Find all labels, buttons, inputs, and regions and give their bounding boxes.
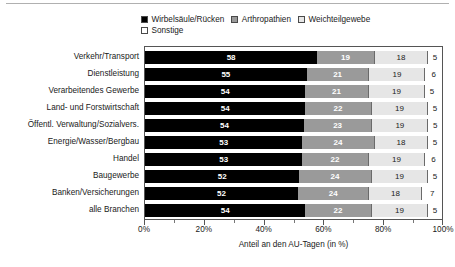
legend-label-2: Weichteilgewebe <box>308 14 370 25</box>
y-axis-label: Handel <box>0 152 139 165</box>
y-axis-label: alle Branchen <box>0 203 139 216</box>
bar-segment: 5 <box>427 51 442 64</box>
x-tick-minor <box>234 220 235 223</box>
bar-segment-value: 18 <box>396 138 405 147</box>
x-tick-major <box>383 220 384 225</box>
bar-segment: 21 <box>305 85 367 98</box>
x-tick-label: 100% <box>433 225 454 234</box>
bar-segment: 21 <box>307 68 369 81</box>
bar-row: 5819185 <box>145 51 442 64</box>
bar-segment: 5 <box>424 85 439 98</box>
y-axis-label: Verkehr/Transport <box>0 50 139 63</box>
bar-segment: 6 <box>424 153 442 166</box>
y-axis-label: Energie/Wasser/Bergbau <box>0 135 139 148</box>
legend-entry-sonstige: Sonstige <box>141 25 183 36</box>
bar-segment: 19 <box>317 51 373 64</box>
bar-segment-value: 22 <box>334 206 343 215</box>
bar-segment: 19 <box>368 153 424 166</box>
bar-segment-value: 21 <box>332 87 341 96</box>
bar-segment: 5 <box>427 204 442 217</box>
legend-label-0: Wirbelsäule/Rücken <box>152 14 225 25</box>
bar-segment: 18 <box>374 136 427 149</box>
bar-segment-value: 5 <box>433 138 437 147</box>
bar-segment-value: 19 <box>392 155 401 164</box>
x-tick-minor <box>413 220 414 223</box>
bar-segment-value: 19 <box>395 121 404 130</box>
legend-entry-wirbelsaeule-ruecken: Wirbelsäule/Rücken <box>141 14 224 25</box>
bar-segment-value: 21 <box>333 70 342 79</box>
bar-rows: 5819185552119654211955422195542319553241… <box>145 47 442 219</box>
legend-label-1: Arthropathien <box>242 14 291 25</box>
bar-segment: 23 <box>304 119 372 132</box>
bar-segment: 24 <box>299 170 370 183</box>
bar-segment-value: 6 <box>431 155 435 164</box>
bar-segment-value: 5 <box>430 87 434 96</box>
bar-segment: 7 <box>421 187 442 200</box>
bar-segment-value: 19 <box>395 206 404 215</box>
bar-segment: 19 <box>371 119 427 132</box>
bar-segment-value: 54 <box>221 104 230 113</box>
bar-segment-value: 53 <box>219 155 228 164</box>
bar-row: 5421195 <box>145 85 442 98</box>
bar-segment-value: 19 <box>392 70 401 79</box>
bar-segment: 53 <box>145 153 302 166</box>
bar-segment: 58 <box>145 51 317 64</box>
bar-segment: 54 <box>145 204 305 217</box>
x-tick-major <box>144 220 145 225</box>
legend-row-1: Wirbelsäule/Rücken Arthropathien Weichte… <box>141 14 446 25</box>
bar-segment-value: 19 <box>395 172 404 181</box>
x-axis-tick-labels: 0%20%40%60%80%100% <box>144 225 443 237</box>
bar-segment: 24 <box>298 187 369 200</box>
bar-row: 5224195 <box>145 170 442 183</box>
bar-row: 5324185 <box>145 136 442 149</box>
bar-segment: 18 <box>374 51 427 64</box>
y-axis-label: Dienstleistung <box>0 67 139 80</box>
bar-segment: 19 <box>371 102 427 115</box>
bar-segment: 54 <box>145 85 305 98</box>
y-axis-label: Banken/Versicherungen <box>0 186 139 199</box>
bar-segment: 22 <box>305 204 370 217</box>
bar-segment: 6 <box>424 68 442 81</box>
chart-legend: Wirbelsäule/Rücken Arthropathien Weichte… <box>141 14 446 36</box>
bar-row: 5423195 <box>145 119 442 132</box>
bar-segment-value: 19 <box>341 53 350 62</box>
bar-segment-value: 5 <box>433 53 437 62</box>
bar-segment-value: 5 <box>433 206 437 215</box>
legend-row-2: Sonstige <box>141 25 446 36</box>
x-tick-major <box>264 220 265 225</box>
bar-segment: 18 <box>368 187 421 200</box>
bar-segment-value: 5 <box>433 172 437 181</box>
bar-row: 5521196 <box>145 68 442 81</box>
bar-row: 5322196 <box>145 153 442 166</box>
x-axis-title: Anteil an den AU-Tagen (in %) <box>144 240 443 249</box>
y-axis-category-labels: Verkehr/TransportDienstleistungVerarbeit… <box>0 46 139 220</box>
bar-segment-value: 54 <box>221 206 230 215</box>
y-axis-label: Baugewerbe <box>0 169 139 182</box>
chart-figure: Wirbelsäule/Rücken Arthropathien Weichte… <box>0 0 455 267</box>
x-tick-minor <box>353 220 354 223</box>
plot-area: 5819185552119654211955422195542319553241… <box>144 46 443 220</box>
bar-segment: 5 <box>427 119 442 132</box>
x-tick-label: 60% <box>315 225 331 234</box>
bar-segment: 22 <box>305 102 370 115</box>
bar-segment-value: 55 <box>221 70 230 79</box>
bar-segment: 19 <box>371 170 427 183</box>
bar-row: 5422195 <box>145 102 442 115</box>
bar-segment: 52 <box>145 170 299 183</box>
bar-segment-value: 54 <box>220 121 229 130</box>
bar-segment-value: 18 <box>391 189 400 198</box>
y-axis-label: Öffentl. Verwaltung/Sozialvers. <box>0 118 139 131</box>
bar-segment-value: 7 <box>430 189 434 198</box>
bar-segment: 19 <box>371 204 427 217</box>
bar-segment-value: 24 <box>329 189 338 198</box>
bar-segment-value: 19 <box>395 104 404 113</box>
legend-entry-weichteilgewebe: Weichteilgewebe <box>298 14 370 25</box>
legend-entry-arthropathien: Arthropathien <box>231 14 291 25</box>
bar-segment: 22 <box>302 153 367 166</box>
x-tick-label: 0% <box>138 225 150 234</box>
bar-segment-value: 24 <box>334 138 343 147</box>
legend-swatch-icon-2 <box>298 16 305 23</box>
x-tick-minor <box>294 220 295 223</box>
bar-segment: 5 <box>427 170 442 183</box>
bar-segment-value: 23 <box>333 121 342 130</box>
